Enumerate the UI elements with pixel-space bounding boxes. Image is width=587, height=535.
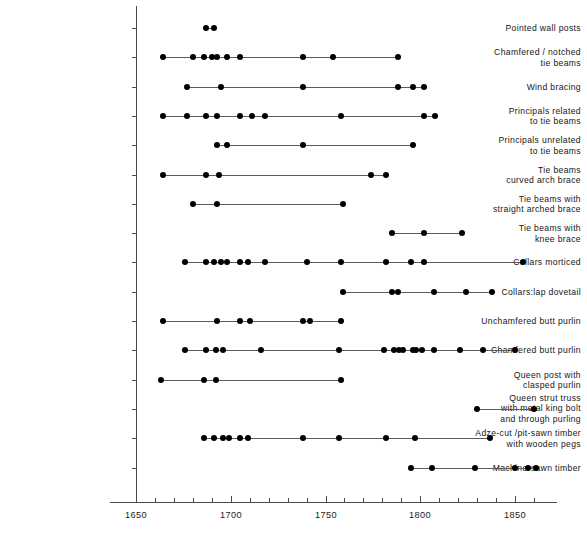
x-axis-tick-label: 1800 bbox=[409, 510, 431, 520]
data-point bbox=[395, 54, 401, 60]
y-axis-tick bbox=[132, 468, 137, 469]
y-axis-line bbox=[136, 6, 137, 502]
data-point bbox=[408, 259, 414, 265]
data-point bbox=[190, 54, 196, 60]
y-axis-tick bbox=[132, 233, 137, 234]
data-point bbox=[338, 113, 344, 119]
x-axis-major-tick bbox=[231, 496, 232, 502]
y-axis-tick bbox=[132, 262, 137, 263]
y-axis-tick bbox=[132, 350, 137, 351]
data-point bbox=[431, 289, 437, 295]
data-point bbox=[211, 435, 217, 441]
y-axis-category-label: Principals unrelated to tie beams bbox=[459, 135, 587, 156]
data-point bbox=[463, 289, 469, 295]
data-point bbox=[520, 259, 526, 265]
data-point bbox=[410, 84, 416, 90]
y-axis-tick bbox=[132, 175, 137, 176]
data-point bbox=[383, 259, 389, 265]
data-point bbox=[300, 435, 306, 441]
data-point bbox=[395, 289, 401, 295]
data-point bbox=[512, 465, 518, 471]
data-point bbox=[431, 347, 437, 353]
x-axis-minor-tick bbox=[269, 498, 270, 502]
data-point bbox=[218, 84, 224, 90]
data-point bbox=[213, 377, 219, 383]
data-point bbox=[432, 113, 438, 119]
data-point bbox=[201, 54, 207, 60]
data-point bbox=[512, 347, 518, 353]
data-point bbox=[203, 172, 209, 178]
data-point bbox=[412, 435, 418, 441]
data-point bbox=[190, 201, 196, 207]
data-point bbox=[201, 377, 207, 383]
x-axis-major-tick bbox=[326, 496, 327, 502]
x-axis-minor-tick bbox=[458, 498, 459, 502]
series-range-line bbox=[185, 262, 522, 263]
plot-area: 16501700175018001850Pointed wall postsCh… bbox=[0, 0, 587, 535]
data-point bbox=[400, 347, 406, 353]
data-point bbox=[214, 201, 220, 207]
data-point bbox=[421, 84, 427, 90]
y-axis-tick bbox=[132, 204, 137, 205]
data-point bbox=[336, 347, 342, 353]
data-point bbox=[419, 347, 425, 353]
data-point bbox=[262, 259, 268, 265]
data-point bbox=[226, 435, 232, 441]
x-axis-minor-tick bbox=[382, 498, 383, 502]
data-point bbox=[368, 172, 374, 178]
data-point bbox=[474, 406, 480, 412]
y-axis-category-label: Unchamfered butt purlin bbox=[459, 316, 587, 326]
y-axis-category-label: Tie beams with knee brace bbox=[459, 223, 587, 244]
y-axis-tick bbox=[132, 380, 137, 381]
y-axis-tick bbox=[132, 116, 137, 117]
data-point bbox=[184, 113, 190, 119]
data-point bbox=[160, 113, 166, 119]
x-axis-tick-label: 1650 bbox=[125, 510, 147, 520]
x-axis-minor-tick bbox=[439, 498, 440, 502]
data-point bbox=[300, 84, 306, 90]
data-point bbox=[330, 54, 336, 60]
x-axis-minor-tick bbox=[212, 498, 213, 502]
data-point bbox=[203, 25, 209, 31]
data-point bbox=[249, 113, 255, 119]
x-axis-minor-tick bbox=[344, 498, 345, 502]
y-axis-category-label: Principals related to tie beams bbox=[459, 105, 587, 126]
x-axis-minor-tick bbox=[193, 498, 194, 502]
x-axis-minor-tick bbox=[307, 498, 308, 502]
data-point bbox=[201, 435, 207, 441]
data-point bbox=[338, 259, 344, 265]
data-point bbox=[383, 435, 389, 441]
data-point bbox=[383, 172, 389, 178]
y-axis-category-label: Pointed wall posts bbox=[459, 23, 587, 33]
data-point bbox=[237, 54, 243, 60]
data-point bbox=[160, 318, 166, 324]
y-axis-category-label: Queen post with clasped purlin bbox=[459, 369, 587, 390]
y-axis-category-label: Tie beams with straight arched brace bbox=[459, 193, 587, 214]
data-point bbox=[421, 259, 427, 265]
series-range-line bbox=[163, 175, 387, 176]
x-axis-minor-tick bbox=[534, 498, 535, 502]
data-point bbox=[182, 347, 188, 353]
data-point bbox=[184, 84, 190, 90]
data-point bbox=[307, 318, 313, 324]
data-point bbox=[525, 465, 531, 471]
data-point bbox=[224, 142, 230, 148]
data-point bbox=[214, 142, 220, 148]
x-axis-minor-tick bbox=[155, 498, 156, 502]
x-axis-minor-tick bbox=[401, 498, 402, 502]
data-point bbox=[472, 465, 478, 471]
data-point bbox=[237, 435, 243, 441]
y-axis-category-label: Wind bracing bbox=[459, 81, 587, 91]
data-point bbox=[224, 54, 230, 60]
x-axis-minor-tick bbox=[363, 498, 364, 502]
x-axis-minor-tick bbox=[477, 498, 478, 502]
series-range-line bbox=[161, 380, 341, 381]
data-point bbox=[158, 377, 164, 383]
data-point bbox=[300, 318, 306, 324]
series-range-line bbox=[477, 409, 534, 410]
data-point bbox=[336, 435, 342, 441]
data-point bbox=[213, 347, 219, 353]
x-axis-tick-label: 1750 bbox=[315, 510, 337, 520]
y-axis-tick bbox=[132, 292, 137, 293]
y-axis-tick bbox=[132, 438, 137, 439]
